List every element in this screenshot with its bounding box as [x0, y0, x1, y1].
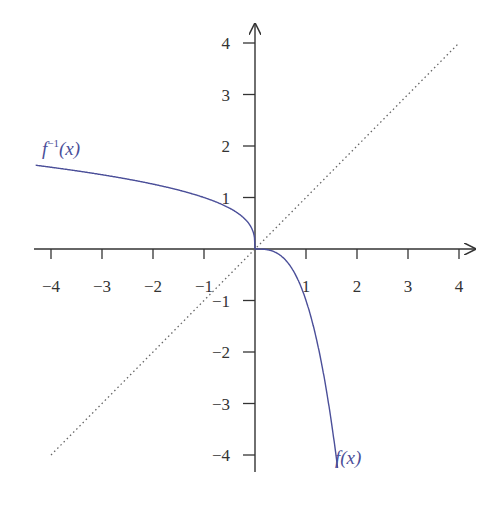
y-tick-label: 2 — [222, 137, 231, 156]
f-curve — [255, 249, 338, 468]
x-tick-label: −3 — [93, 277, 111, 296]
x-tick-label: 3 — [404, 277, 413, 296]
x-tick-label: −1 — [195, 277, 213, 296]
y-tick-label: 3 — [222, 86, 231, 105]
y-tick-label: −4 — [212, 446, 231, 465]
x-tick-label: −4 — [42, 277, 61, 296]
x-tick-label: 4 — [455, 277, 464, 296]
x-tick-label: 2 — [353, 277, 362, 296]
y-tick-label: −3 — [212, 395, 230, 414]
y-tick-label: −2 — [212, 343, 230, 362]
function-inverse-chart: −4−3−2−11234−4−3−2−11234 f−1(x) f(x) — [0, 0, 498, 506]
y-tick-label: −1 — [212, 292, 230, 311]
x-tick-label: −2 — [144, 277, 162, 296]
f-inverse-label: f−1(x) — [42, 137, 80, 160]
f-label: f(x) — [335, 447, 361, 469]
y-tick-label: 4 — [222, 34, 231, 53]
